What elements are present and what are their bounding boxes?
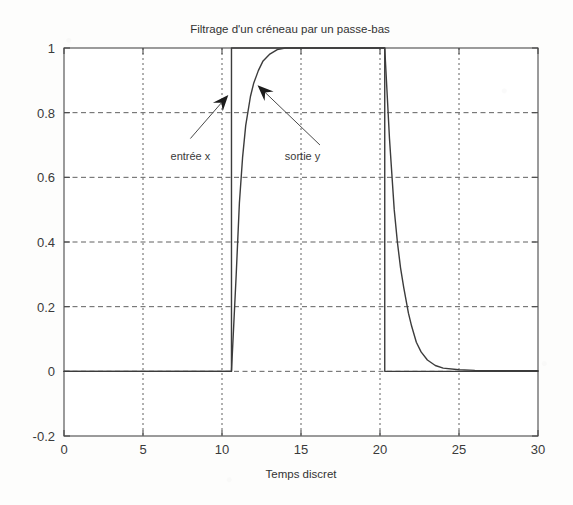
y-tick-label: 0.4 [37, 235, 55, 250]
y-tick-label: 0 [48, 364, 55, 379]
y-tick-label: 0.6 [37, 170, 55, 185]
x-axis-label: Temps discret [266, 468, 338, 480]
figure-canvas: Filtrage d'un créneau par un passe-bas 0… [0, 0, 573, 505]
x-tick-label: 15 [294, 442, 308, 457]
y-tick-label: 0.2 [37, 300, 55, 315]
x-tick-label: 25 [452, 442, 466, 457]
x-tick-label: 30 [531, 442, 545, 457]
chart-title: Filtrage d'un créneau par un passe-bas [190, 23, 390, 35]
x-tick-label: 5 [139, 442, 146, 457]
annotation-label: entrée x [171, 150, 211, 162]
y-tick-label: 0.8 [37, 106, 55, 121]
x-tick-label: 10 [215, 442, 229, 457]
y-tick-label: 1 [48, 41, 55, 56]
x-tick-label: 0 [60, 442, 67, 457]
chart-plot: Filtrage d'un créneau par un passe-bas 0… [0, 0, 573, 505]
y-axis-tick-labels: -0.200.20.40.60.81 [33, 41, 55, 444]
y-tick-label: -0.2 [33, 429, 55, 444]
x-tick-label: 20 [373, 442, 387, 457]
annotation-label: sortie y [285, 150, 321, 162]
x-axis-tick-labels: 051015202530 [60, 442, 545, 457]
